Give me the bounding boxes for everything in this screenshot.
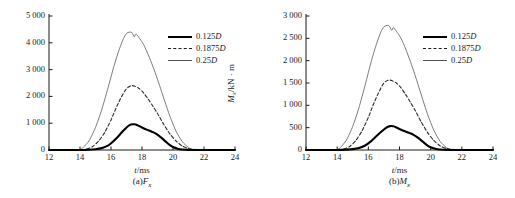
x-tick-label-b-3: 18 bbox=[385, 152, 415, 162]
y-tick-label-a-2: 2 000 bbox=[3, 90, 45, 100]
legend-label-value-a-2: 0.25 bbox=[196, 55, 211, 65]
legend-label-value-a-0: 0.125 bbox=[196, 31, 215, 41]
x-axis-label-unit-a: /ms bbox=[137, 165, 150, 175]
legend-item-b-0: 0.125D bbox=[423, 30, 481, 42]
panel-caption-a: (a)Fx bbox=[102, 176, 182, 189]
panel-caption-subscript-a: x bbox=[148, 181, 151, 189]
y-tick-label-b-5: 2 500 bbox=[260, 32, 302, 42]
legend-a: 0.125D0.1875D0.25D bbox=[168, 30, 226, 66]
y-axis-label-b: Mx/kN · m bbox=[226, 54, 239, 112]
legend-label-b-2: 0.25D bbox=[451, 55, 472, 65]
legend-label-value-b-0: 0.125 bbox=[451, 31, 470, 41]
series-line-a-0 bbox=[49, 124, 235, 150]
panel-caption-b: (b)Mx bbox=[360, 176, 440, 189]
y-axis-label-subscript-b: x bbox=[230, 92, 238, 95]
y-axis-label-symbol-b: M bbox=[226, 95, 236, 103]
x-tick-label-a-5: 22 bbox=[189, 152, 219, 162]
x-axis-label-unit-b: /ms bbox=[394, 165, 407, 175]
x-tick-label-b-5: 22 bbox=[447, 152, 477, 162]
x-tick-label-b-1: 14 bbox=[322, 152, 352, 162]
legend-label-value-a-1: 0.1875 bbox=[196, 43, 219, 53]
series-line-b-1 bbox=[306, 80, 493, 150]
legend-item-b-1: 0.1875D bbox=[423, 42, 481, 54]
series-line-b-0 bbox=[306, 126, 493, 150]
y-tick-label-a-4: 4 000 bbox=[3, 37, 45, 47]
x-axis-label-b: t/ms bbox=[360, 165, 440, 175]
x-tick-label-b-2: 16 bbox=[353, 152, 383, 162]
chart-panel-b: Mx/kN · m t/ms (b)Mx 0.125D0.1875D0.25D … bbox=[257, 0, 515, 198]
y-tick-label-b-1: 500 bbox=[260, 122, 302, 132]
chart-panel-a: Fx/kN t/ms (a)Fx 0.125D0.1875D0.25D 01 0… bbox=[0, 0, 257, 198]
legend-label-a-2: 0.25D bbox=[196, 55, 217, 65]
legend-swatch-thin-icon bbox=[168, 55, 192, 65]
x-tick-label-b-6: 24 bbox=[478, 152, 508, 162]
x-tick-label-a-2: 16 bbox=[96, 152, 126, 162]
legend-item-a-1: 0.1875D bbox=[168, 42, 226, 54]
y-tick-label-a-3: 3 000 bbox=[3, 64, 45, 74]
y-tick-label-a-1: 1 000 bbox=[3, 117, 45, 127]
legend-label-b-1: 0.1875D bbox=[451, 43, 481, 53]
legend-label-a-1: 0.1875D bbox=[196, 43, 226, 53]
x-axis-label-a: t/ms bbox=[102, 165, 182, 175]
legend-item-b-2: 0.25D bbox=[423, 54, 481, 66]
legend-label-symbol-b-2: D bbox=[466, 55, 472, 65]
legend-label-value-b-2: 0.25 bbox=[451, 55, 466, 65]
legend-label-symbol-a-2: D bbox=[211, 55, 217, 65]
legend-item-a-0: 0.125D bbox=[168, 30, 226, 42]
legend-label-symbol-b-0: D bbox=[470, 31, 476, 41]
legend-swatch-thick-icon bbox=[423, 31, 447, 41]
panel-caption-symbol-b: M bbox=[399, 176, 407, 186]
panel-caption-prefix-b: (b) bbox=[389, 176, 400, 186]
y-tick-label-b-2: 1 000 bbox=[260, 99, 302, 109]
x-tick-label-a-3: 18 bbox=[127, 152, 157, 162]
legend-label-symbol-a-1: D bbox=[219, 43, 225, 53]
panel-caption-prefix-a: (a) bbox=[133, 176, 143, 186]
legend-label-value-b-1: 0.1875 bbox=[451, 43, 474, 53]
legend-swatch-thin-icon bbox=[423, 55, 447, 65]
y-axis-label-unit-b: /kN · m bbox=[226, 64, 236, 92]
x-tick-label-a-6: 24 bbox=[220, 152, 250, 162]
y-tick-label-b-6: 3 000 bbox=[260, 10, 302, 20]
x-tick-label-a-1: 14 bbox=[65, 152, 95, 162]
x-tick-label-b-0: 12 bbox=[291, 152, 321, 162]
legend-swatch-dashed-icon bbox=[168, 43, 192, 53]
legend-label-a-0: 0.125D bbox=[196, 31, 221, 41]
panel-caption-subscript-b: x bbox=[407, 181, 410, 189]
figure-container: Fx/kN t/ms (a)Fx 0.125D0.1875D0.25D 01 0… bbox=[0, 0, 515, 198]
legend-label-b-0: 0.125D bbox=[451, 31, 476, 41]
x-tick-label-a-4: 20 bbox=[158, 152, 188, 162]
legend-label-symbol-a-0: D bbox=[215, 31, 221, 41]
y-tick-label-b-3: 1 500 bbox=[260, 77, 302, 87]
x-tick-label-a-0: 12 bbox=[34, 152, 64, 162]
series-line-a-1 bbox=[49, 86, 235, 150]
y-tick-label-a-5: 5 000 bbox=[3, 10, 45, 20]
legend-b: 0.125D0.1875D0.25D bbox=[423, 30, 481, 66]
x-tick-label-b-4: 20 bbox=[416, 152, 446, 162]
legend-label-symbol-b-1: D bbox=[474, 43, 480, 53]
y-tick-label-b-4: 2 000 bbox=[260, 55, 302, 65]
legend-item-a-2: 0.25D bbox=[168, 54, 226, 66]
legend-swatch-thick-icon bbox=[168, 31, 192, 41]
legend-swatch-dashed-icon bbox=[423, 43, 447, 53]
